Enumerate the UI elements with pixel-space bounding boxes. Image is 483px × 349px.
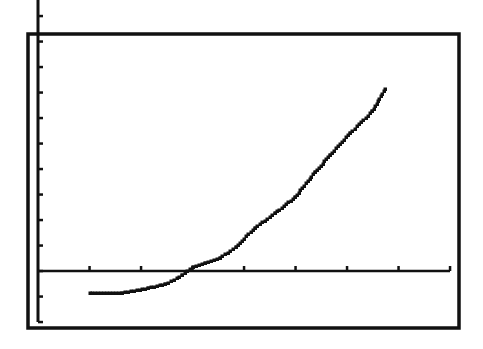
curve-pixel [198,264,202,268]
x-tick [449,266,452,271]
curve-pixel [109,292,113,296]
curve-pixel [164,283,168,287]
curve-pixel [201,263,205,267]
curve-pixel [167,282,171,286]
y-tick [38,244,43,247]
calculator-graph-screen [0,0,483,349]
x-tick [346,266,349,271]
curve-pixel [310,176,314,180]
curve-pixel [121,292,125,296]
curve-pixel [115,292,119,296]
curve-pixel [178,276,182,280]
curve-pixel [362,119,366,123]
curve-pixel [147,287,151,291]
y-tick [38,142,43,145]
curve-pixel [186,270,190,274]
curve-pixel [136,289,140,293]
curve-pixel [118,292,122,296]
curve-pixel [322,163,326,167]
curve-pixel [195,265,199,269]
curve-pixel [232,248,236,252]
curve-pixel [153,286,157,290]
curve-pixel [173,279,177,283]
curve-pixel [97,292,101,296]
curve-pixel [103,292,107,296]
frame-border [28,34,459,328]
curve-pixel [271,214,275,218]
curve-pixel [256,225,260,229]
y-tick [38,295,43,298]
curve-pixel [343,139,347,143]
curve-pixel [221,255,225,259]
curve-pixel [133,290,137,294]
curve-pixel [161,284,165,288]
curve-pixel [354,128,358,132]
y-tick [38,168,43,171]
curve-pixel [266,218,270,222]
curve-pixel [124,291,128,295]
curve-pixel [373,108,377,112]
curve-pixel [210,260,214,264]
curve-pixel [298,192,302,196]
curve-pixel [381,93,385,97]
curve-pixel [378,98,382,102]
x-tick [88,266,91,271]
curve-pixel [367,115,371,119]
curve-pixel [224,253,228,257]
curve-pixel [106,292,110,296]
curve-pixel [243,238,247,242]
curve-pixel [112,292,116,296]
curve-pixel [100,292,104,296]
y-tick [38,15,43,17]
y-tick [38,321,43,324]
curve-pixel [204,262,208,266]
curve-pixel [170,280,174,284]
curve-pixel [384,88,388,92]
curve-pixel [127,291,131,295]
x-tick [397,266,400,271]
curve-pixel [192,266,196,270]
graph-plot [0,0,483,349]
curve-pixel [229,250,233,254]
curve-pixel [247,233,251,237]
curve-pixel [144,288,148,292]
x-tick [243,266,246,271]
curve-pixel [181,274,185,278]
curve-pixel [287,201,291,205]
curve-pixel [94,292,98,296]
y-tick [38,91,43,94]
curve-pixel [351,130,355,134]
curve-pixel [278,209,282,213]
curve-pixel [213,259,217,263]
curve-pixel [91,292,95,296]
curve-pixel [207,261,211,265]
x-tick [140,266,143,271]
curve-pixel [189,268,193,272]
y-tick [38,117,43,120]
y-tick [38,40,43,43]
y-tick [38,219,43,222]
plotted-curve [89,88,388,296]
curve-pixel [303,185,307,189]
y-tick [38,270,43,273]
screen-frame [28,34,459,328]
curve-pixel [333,150,337,154]
curve-pixel [216,258,220,262]
curve-pixel [261,221,265,225]
x-tick [294,266,297,271]
axes [38,0,450,322]
y-tick [38,193,43,196]
curve-pixel [156,285,160,289]
curve-pixel [150,286,154,290]
curve-pixel [376,103,380,107]
curve-pixel [141,288,145,292]
curve-pixel [130,290,134,294]
y-tick [38,66,43,69]
